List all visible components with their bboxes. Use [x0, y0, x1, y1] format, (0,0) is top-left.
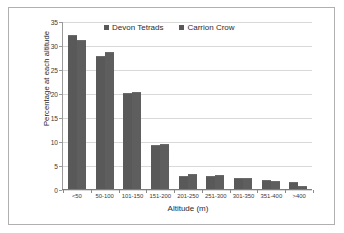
x-axis-title: Altitude (m): [63, 204, 313, 213]
bar-group: [91, 22, 119, 189]
plot-region: 05101520253035: [62, 22, 312, 190]
bar-series-container: [63, 22, 312, 189]
bar-group: [146, 22, 174, 189]
bar[interactable]: [151, 145, 160, 189]
bar[interactable]: [271, 181, 280, 189]
y-axis-tick-label: 5: [54, 163, 62, 170]
bar-group: [118, 22, 146, 189]
x-axis-tick-label: 301-350: [230, 193, 258, 199]
y-axis-tick-label: 25: [51, 67, 62, 74]
chart-figure: Percentage at each altitude Devon Tetrad…: [0, 0, 344, 233]
y-axis-tick-label: 10: [51, 139, 62, 146]
bar[interactable]: [96, 56, 105, 189]
x-axis-tickmark: [313, 190, 314, 193]
chart-area: Percentage at each altitude Devon Tetrad…: [18, 14, 320, 218]
x-axis-tick-label: 351-400: [257, 193, 285, 199]
bar-group: [174, 22, 202, 189]
bar-group: [284, 22, 312, 189]
x-axis-tick-labels: <5050-100101-150151-200201-250251-300301…: [63, 193, 313, 199]
bar[interactable]: [243, 178, 252, 189]
bar-group: [201, 22, 229, 189]
bar[interactable]: [179, 176, 188, 189]
bar[interactable]: [132, 92, 141, 189]
y-axis-tick-label: 30: [51, 43, 62, 50]
x-axis-tick-label: 201-250: [174, 193, 202, 199]
bar[interactable]: [160, 144, 169, 189]
bar[interactable]: [68, 35, 77, 189]
bar-group: [229, 22, 257, 189]
bar[interactable]: [234, 178, 243, 189]
bar[interactable]: [298, 186, 307, 189]
bar[interactable]: [262, 180, 271, 189]
x-axis-tick-label: 251-300: [202, 193, 230, 199]
x-axis-tick-label: 151-200: [146, 193, 174, 199]
bar[interactable]: [77, 40, 86, 189]
bar-group: [257, 22, 285, 189]
bar[interactable]: [123, 93, 132, 189]
y-axis-tick-label: 15: [51, 115, 62, 122]
bar[interactable]: [206, 176, 215, 189]
bar-group: [63, 22, 91, 189]
y-axis-tick-label: 35: [51, 19, 62, 26]
bar[interactable]: [188, 174, 197, 189]
x-axis-tick-label: <50: [63, 193, 91, 199]
bar[interactable]: [289, 182, 298, 189]
x-axis-tick-label: 50-100: [91, 193, 119, 199]
bar[interactable]: [215, 175, 224, 189]
x-axis-tick-label: >400: [285, 193, 313, 199]
y-axis-tick-label: 20: [51, 91, 62, 98]
y-axis-tick-label: 0: [54, 187, 62, 194]
y-axis-title: Percentage at each altitude: [42, 9, 51, 149]
x-axis-tick-label: 101-150: [119, 193, 147, 199]
bar[interactable]: [105, 52, 114, 189]
